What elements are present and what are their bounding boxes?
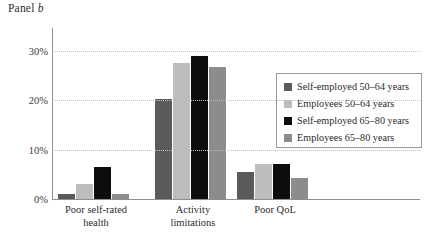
y-axis-tick-label: 10% bbox=[2, 144, 48, 155]
legend-swatch-icon bbox=[284, 83, 292, 91]
legend-item[interactable]: Self-employed 50–64 years bbox=[284, 78, 421, 95]
legend-item-label: Employees 65–80 years bbox=[297, 132, 394, 143]
bar bbox=[191, 56, 208, 199]
legend-item[interactable]: Employees 50–64 years bbox=[284, 95, 421, 112]
bar-group bbox=[155, 28, 226, 199]
x-axis-line bbox=[52, 199, 420, 200]
bar bbox=[237, 172, 254, 199]
bar bbox=[76, 184, 93, 199]
bar bbox=[255, 164, 272, 199]
legend-swatch-icon bbox=[284, 117, 292, 125]
bar bbox=[173, 63, 190, 199]
legend: Self-employed 50–64 yearsEmployees 50–64… bbox=[276, 73, 422, 148]
bar bbox=[209, 67, 226, 199]
y-axis-tick-label: 20% bbox=[2, 95, 48, 106]
legend-item[interactable]: Employees 65–80 years bbox=[284, 129, 421, 146]
x-axis-category-label: Poor QoL bbox=[215, 203, 335, 216]
gridline bbox=[52, 100, 420, 101]
bar bbox=[94, 167, 111, 199]
legend-item-label: Self-employed 65–80 years bbox=[297, 115, 409, 126]
bar-chart: Panel b 0%10%20%30% Self-employed 50–64 … bbox=[0, 0, 432, 241]
bar bbox=[112, 194, 129, 199]
bar-group bbox=[58, 28, 129, 199]
legend-swatch-icon bbox=[284, 134, 292, 142]
bar bbox=[273, 164, 290, 199]
legend-item-label: Self-employed 50–64 years bbox=[297, 81, 409, 92]
gridline bbox=[52, 51, 420, 52]
gridline bbox=[52, 150, 420, 151]
bar bbox=[291, 178, 308, 199]
y-axis-tick-label: 30% bbox=[2, 46, 48, 57]
legend-item[interactable]: Self-employed 65–80 years bbox=[284, 112, 421, 129]
bar bbox=[58, 194, 75, 199]
